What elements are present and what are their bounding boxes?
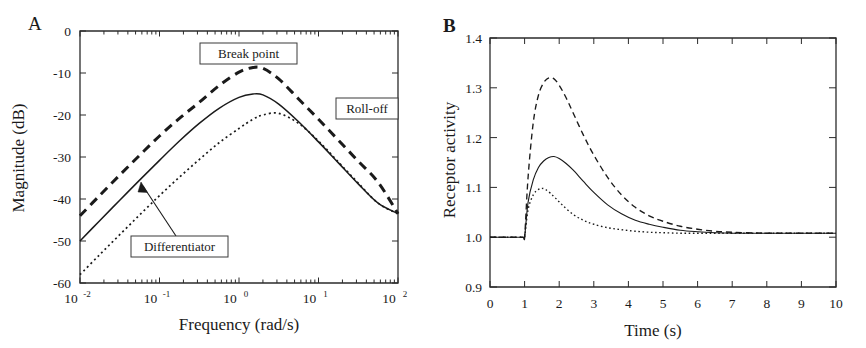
panel-a-xtick-exponent: -1: [163, 289, 171, 299]
panel-b-xtick-label: 1: [521, 296, 528, 311]
panel-b-curve-solid: [490, 156, 836, 239]
panel-a-curve-dashed: [80, 67, 398, 216]
panel-b-ytick-label: 0.9: [465, 280, 482, 295]
annotation-roll-off: Roll-off: [336, 98, 398, 119]
panel-a-xtick-label: 102: [382, 289, 407, 306]
panel-a-xtick-base: 10: [223, 291, 237, 306]
panel-b-curve-dashed: [490, 78, 836, 242]
panel-b-ytick-label: 1.2: [465, 131, 482, 146]
panel-b-curves: [490, 78, 836, 242]
panel-b-xtick-label: 3: [590, 296, 597, 311]
panel-a-xlabel: Frequency (rad/s): [179, 315, 299, 334]
panel-a-letter: A: [28, 13, 42, 34]
panel-a-xtick-label: 10-1: [144, 289, 171, 306]
panel-b-xtick-label: 4: [625, 296, 632, 311]
panel-b-curve-dotted: [490, 188, 836, 239]
panel-b-ylabel: Receptor activity: [440, 101, 459, 218]
panel-a-xtick-base: 10: [64, 291, 78, 306]
panel-b-xtick-label: 0: [487, 296, 494, 311]
panel-a-ytick-label: 0: [64, 24, 71, 39]
differentiator-arrow-shaft: [143, 186, 176, 236]
panel-a-xtick-exponent: 1: [323, 289, 328, 299]
receptor-activity-panel: B 0.91.01.11.21.31.4012345678910 Time (s…: [433, 0, 866, 348]
panel-a-xtick-exponent: 2: [403, 289, 408, 299]
panel-b-xtick-label: 8: [763, 296, 770, 311]
panel-a-ytick-label: -50: [53, 234, 71, 249]
panel-a-xtick-label: 101: [303, 289, 328, 306]
panel-b-xtick-label: 6: [694, 296, 701, 311]
panel-b-svg: B 0.91.01.11.21.31.4012345678910 Time (s…: [433, 0, 866, 348]
annotation-differentiator: Differentiator: [131, 182, 228, 257]
panel-a-axes: [80, 31, 398, 283]
panel-b-xtick-label: 7: [729, 296, 736, 311]
panel-a-xtick-exponent: -2: [83, 289, 91, 299]
panel-b-xlabel: Time (s): [624, 321, 681, 340]
panel-a-ytick-label: -40: [53, 192, 71, 207]
break-point-label: Break point: [218, 46, 279, 61]
roll-off-label: Roll-off: [346, 101, 388, 116]
differentiator-label: Differentiator: [144, 239, 216, 254]
figure-container: A 0-10-20-30-40-50-6010-210-1100101102 F…: [0, 0, 866, 348]
panel-a-xtick-label: 10-2: [64, 289, 91, 306]
panel-a-xtick-label: 100: [223, 289, 249, 306]
annotation-break-point: Break point: [200, 43, 297, 64]
panel-b-xtick-label: 2: [556, 296, 563, 311]
panel-b-ytick-label: 1.0: [465, 230, 482, 245]
panel-a-xtick-base: 10: [382, 291, 396, 306]
panel-b-letter: B: [443, 15, 456, 36]
panel-a-ytick-label: -30: [53, 150, 71, 165]
panel-a-xtick-exponent: 0: [244, 289, 249, 299]
bode-magnitude-panel: A 0-10-20-30-40-50-6010-210-1100101102 F…: [0, 0, 433, 348]
panel-a-ytick-label: -60: [53, 276, 71, 291]
panel-a-ylabel: Magnitude (dB): [9, 103, 28, 212]
panel-a-curve-dotted: [80, 113, 398, 275]
panel-a-ytick-label: -20: [53, 108, 71, 123]
panel-b-tick-labels: 0.91.01.11.21.31.4012345678910: [465, 31, 843, 311]
panel-b-ytick-label: 1.3: [465, 81, 482, 96]
panel-b-xtick-label: 5: [660, 296, 667, 311]
differentiator-arrow-head: [138, 182, 148, 193]
panel-a-xtick-base: 10: [303, 291, 317, 306]
panel-a-plot-box: [80, 31, 398, 283]
panel-b-xtick-label: 9: [798, 296, 805, 311]
panel-b-ytick-label: 1.1: [465, 180, 482, 195]
panel-a-svg: A 0-10-20-30-40-50-6010-210-1100101102 F…: [0, 0, 433, 348]
panel-a-tick-labels: 0-10-20-30-40-50-6010-210-1100101102: [53, 24, 407, 306]
panel-a-ytick-label: -10: [53, 66, 71, 81]
panel-a-xtick-base: 10: [144, 291, 158, 306]
panel-b-ytick-label: 1.4: [465, 31, 482, 46]
panel-b-xtick-label: 10: [829, 296, 843, 311]
